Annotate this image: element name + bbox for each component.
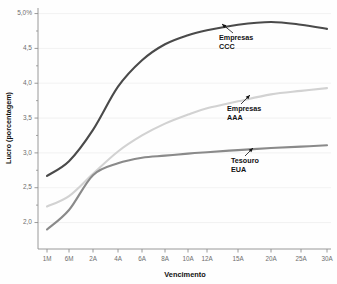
annotation-label-line1: Empresas [227,104,261,113]
x-axis-tick-label: 2A [89,255,98,262]
y-axis-tick-label: 3,0 [23,149,32,156]
x-axis-tick-label: 20A [265,255,277,262]
y-axis-tick-label: 2,5 [23,183,32,190]
annotation-label-line2: CCC [219,42,235,51]
x-axis-tick-label: 25A [295,255,307,262]
x-axis-title: Vencimento [164,270,206,279]
y-axis-tick-label: 3,5 [23,114,32,121]
annotation-label-line2: EUA [231,165,246,174]
yield-curve-chart: 5,0%4,54,03,53,02,52,0 1M6M2A4A6A8A10A12… [0,0,337,284]
x-axis-tick-label: 10A [182,255,194,262]
x-axis-tick-label: 30A [321,255,333,262]
x-axis-tick-label: 12A [201,255,213,262]
y-axis-tick-label: 2,0 [23,218,32,225]
y-axis-tick-label: 4,0 [23,79,32,86]
x-axis-tick-label: 6M [65,255,74,262]
y-axis-title: Lucro (porcentagem) [4,91,13,163]
annotation-label-line1: Tesouro [231,156,259,165]
x-axis-tick-label: 8A [161,255,170,262]
annotation-label-line1: Empresas [219,33,253,42]
y-axis-tick-label: 4,5 [23,44,32,51]
x-axis-tick-label: 1M [43,255,52,262]
chart-canvas: 5,0%4,54,03,53,02,52,0 1M6M2A4A6A8A10A12… [0,0,337,284]
y-axis-tick-label: 5,0% [17,9,32,16]
x-axis-tick-label: 4A [114,255,123,262]
x-axis-tick-label: 15A [232,255,244,262]
x-axis-tick-label: 6A [138,255,147,262]
annotation-label-line2: AAA [227,113,243,122]
